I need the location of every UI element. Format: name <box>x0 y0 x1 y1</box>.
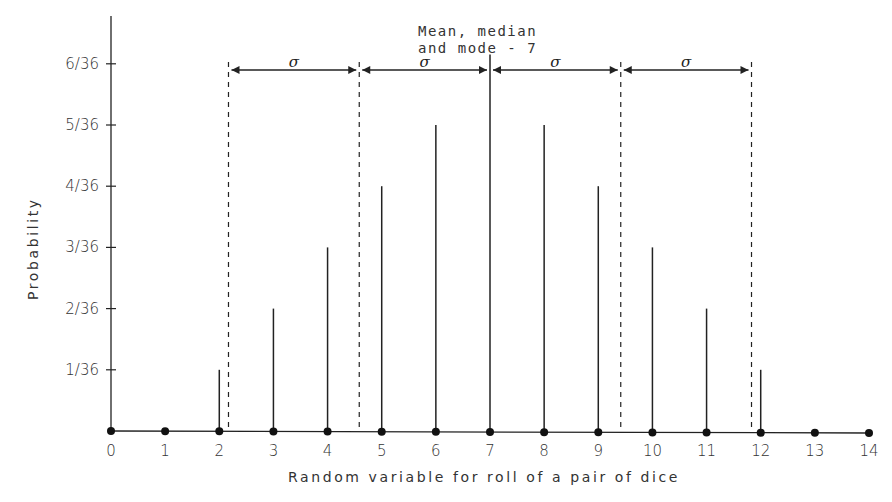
sigma-arrowhead-left <box>362 66 370 74</box>
data-point <box>107 427 115 435</box>
axes <box>106 16 869 433</box>
sigma-arrowhead-left <box>624 66 632 74</box>
x-tick-label: 3 <box>269 442 279 460</box>
y-tick-label: 2/36 <box>65 300 99 318</box>
y-tick-label: 1/36 <box>65 361 99 379</box>
sigma-arrowhead-right <box>479 66 487 74</box>
x-tick-label: 9 <box>594 442 604 460</box>
sigma-arrowhead-right <box>348 66 356 74</box>
data-point <box>540 428 548 436</box>
y-tick-label: 3/36 <box>65 238 99 256</box>
data-point <box>432 428 440 436</box>
x-axis-title: Random variable for roll of a pair of di… <box>288 469 680 485</box>
x-tick-label: 1 <box>160 442 170 460</box>
data-point <box>378 428 386 436</box>
data-point <box>648 428 656 436</box>
y-tick-label: 4/36 <box>65 177 99 195</box>
x-tick-label: 6 <box>431 442 441 460</box>
y-tick-label: 6/36 <box>65 55 99 73</box>
x-tick-label: 2 <box>215 442 225 460</box>
x-tick-label: 11 <box>697 442 716 460</box>
probability-distribution-chart: σσσσ 01234567891011121314 1/362/363/364/… <box>0 0 892 502</box>
sigma-label: σ <box>681 53 692 71</box>
x-tick-labels: 01234567891011121314 <box>106 442 878 460</box>
x-tick-label: 4 <box>323 442 333 460</box>
y-axis-title: Probability <box>25 197 41 300</box>
data-point <box>757 429 765 437</box>
x-tick-label: 12 <box>751 442 770 460</box>
sigma-arrowhead-right <box>610 66 618 74</box>
x-tick-label: 14 <box>859 442 878 460</box>
sigma-arrowhead-left <box>493 66 501 74</box>
data-point <box>594 428 602 436</box>
data-point <box>811 429 819 437</box>
x-tick-label: 10 <box>643 442 662 460</box>
annotation-line-2: and mode - 7 <box>418 40 537 56</box>
points <box>107 427 873 437</box>
annotation-line-1: Mean, median <box>418 23 537 39</box>
x-tick-label: 0 <box>106 442 116 460</box>
data-point <box>324 428 332 436</box>
sigma-arrowhead-right <box>741 66 749 74</box>
data-point <box>486 428 494 436</box>
sigma-label: σ <box>550 53 561 71</box>
data-point <box>215 427 223 435</box>
data-point <box>269 427 277 435</box>
bars <box>219 55 760 433</box>
sigma-arrowhead-left <box>231 66 239 74</box>
sigma-label: σ <box>289 53 300 71</box>
x-tick-label: 13 <box>805 442 824 460</box>
data-point <box>703 429 711 437</box>
data-point <box>865 429 873 437</box>
x-tick-label: 8 <box>539 442 549 460</box>
y-tick-label: 5/36 <box>65 116 99 134</box>
data-point <box>161 427 169 435</box>
y-tick-labels: 1/362/363/364/365/366/36 <box>65 55 99 379</box>
x-tick-label: 5 <box>377 442 387 460</box>
x-tick-label: 7 <box>485 442 495 460</box>
